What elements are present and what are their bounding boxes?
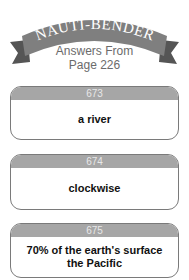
answer-card-673: 673 a river [10, 86, 179, 140]
answer-text: a river [78, 113, 111, 126]
answer-text-line-1: 70% of the earth's surface [27, 244, 163, 257]
answer-text-line-2: the Pacific [67, 257, 122, 270]
card-answer: a river [11, 100, 178, 139]
subtitle-line-2: Page 226 [0, 58, 189, 72]
card-number: 675 [11, 224, 178, 237]
answer-card-675: 675 70% of the earth's surface the Pacif… [10, 223, 179, 278]
answer-text: clockwise [69, 182, 121, 195]
card-number: 674 [11, 155, 178, 168]
nauti-bender-banner: NAUTI-BENDER Answers From Page 226 [0, 0, 189, 80]
subtitle-line-1: Answers From [0, 44, 189, 58]
card-answer: 70% of the earth's surface the Pacific [11, 237, 178, 277]
card-number: 673 [11, 87, 178, 100]
answer-card-674: 674 clockwise [10, 154, 179, 210]
card-answer: clockwise [11, 168, 178, 209]
